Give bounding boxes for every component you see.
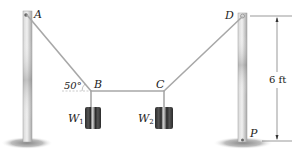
angle-label: 50° [64,80,82,91]
label-C: C [156,78,165,91]
cables [27,15,242,107]
label-W1: W1 [68,112,84,126]
pin-P-icon [241,139,244,142]
label-D: D [224,9,234,22]
cable-CD [164,17,242,91]
right-pole [238,13,247,142]
cable-system-diagram: A B C D P 50° W1 W2 6 ft [0,0,302,154]
label-W2: W2 [138,112,154,126]
left-pole [23,11,32,142]
weight-W1 [85,107,101,129]
dimension-label: 6 ft [269,74,286,85]
angle-arc [82,84,85,91]
label-P: P [249,127,258,140]
label-A: A [33,8,42,21]
weight-W2 [155,107,173,129]
label-B: B [93,78,102,91]
